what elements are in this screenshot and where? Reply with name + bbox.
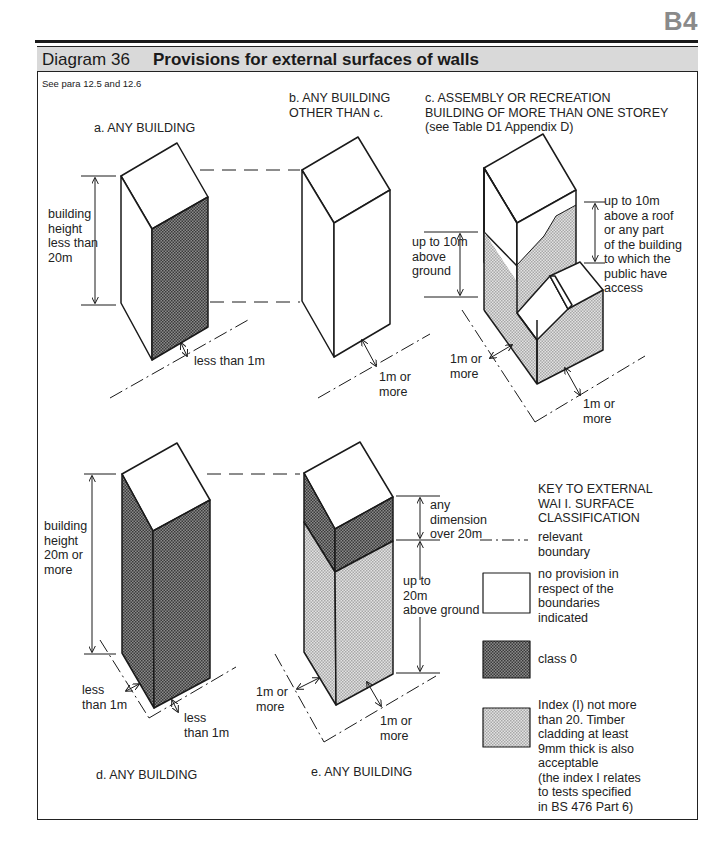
key-light-box-icon [483, 708, 530, 747]
building-b [302, 137, 390, 357]
building-a [121, 143, 208, 360]
label-b-boundary: 1m ormore [379, 370, 411, 399]
label-e-boundary-right: 1m ormore [380, 714, 412, 743]
label-c-boundary-right: 1m ormore [583, 397, 615, 426]
key-item-boundary: relevantboundary [538, 530, 590, 559]
building-c [484, 134, 603, 384]
label-d-boundary-left: lessthan 1m [82, 683, 127, 712]
label-c-roof: up to 10mabove a roofor any partof the b… [604, 194, 682, 296]
building-d [122, 443, 210, 708]
label-d-boundary-right: lessthan 1m [184, 711, 229, 740]
caption-e: e. ANY BUILDING [311, 765, 412, 780]
label-a-boundary: less than 1m [194, 354, 265, 369]
key-item-index20: Index (I) not morethan 20. Timbercladdin… [538, 698, 641, 814]
reference-note: See para 12.5 and 12.6 [42, 77, 141, 92]
key-dark-box-icon [483, 641, 530, 678]
label-e-boundary-left: 1m ormore [256, 685, 288, 714]
key-title: KEY TO EXTERNALWAI I. SURFACECLASSIFICAT… [538, 482, 653, 526]
caption-a: a. ANY BUILDING [94, 121, 195, 136]
label-a-height: buildingheightless than20m [48, 207, 98, 265]
caption-d: d. ANY BUILDING [96, 768, 197, 783]
label-e-upper: anydimensionover 20m [430, 498, 487, 542]
label-c-boundary-left: 1m ormore [450, 352, 482, 381]
building-e [304, 442, 393, 705]
label-d-height: buildingheight20m ormore [44, 519, 87, 577]
key-item-class0: class 0 [538, 652, 577, 667]
caption-b: b. ANY BUILDINGOTHER THAN c. [289, 91, 390, 120]
label-e-lower: up to20mabove ground [403, 574, 479, 618]
caption-c: c. ASSEMBLY OR RECREATIONBUILDING OF MOR… [425, 91, 668, 135]
label-c-ground: up to 10maboveground [412, 235, 468, 279]
key-white-box-icon [483, 573, 530, 613]
key-item-no-provision: no provision inrespect of theboundariesi… [538, 567, 619, 625]
